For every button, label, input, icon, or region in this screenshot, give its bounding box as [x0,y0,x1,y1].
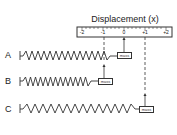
spring-label-a: A [5,50,11,60]
tick-label-plus-1: +1 [140,29,150,35]
tick-label-0: 0 [119,29,129,35]
arrow-b-icon [103,64,106,67]
tick-label-plus-2: +2 [161,29,171,35]
spring-label-c: C [5,104,12,114]
spring-diagram [0,0,177,135]
spring-b [20,77,98,86]
spring-c [20,104,139,113]
mass-block-a: mass [117,52,132,59]
tick-label-minus-2: -2 [77,29,87,35]
spring-label-b: B [5,76,11,86]
mass-block-b: mass [98,78,113,85]
spring-a [20,51,117,60]
mass-block-c: mass [139,106,154,113]
tick-label-minus-1: -1 [98,29,108,35]
arrow-c-icon [144,93,147,96]
